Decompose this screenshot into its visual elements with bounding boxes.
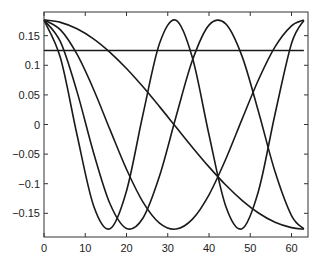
x-tick-label: 0 <box>41 242 47 254</box>
y-tick-label: 0.1 <box>25 59 40 71</box>
x-tick-label: 60 <box>285 242 297 254</box>
line-chart: 0102030405060 0.150.10.050−0.05−0.1−0.15 <box>0 0 323 263</box>
x-tick-label: 20 <box>120 242 132 254</box>
y-tick-label: 0 <box>34 119 40 131</box>
y-tick-label: −0.05 <box>12 148 40 160</box>
y-tick-label: 0.05 <box>19 89 40 101</box>
plot-background <box>44 12 308 237</box>
x-tick-label: 30 <box>162 242 174 254</box>
y-tick-label: −0.15 <box>12 207 40 219</box>
x-tick-label: 50 <box>244 242 256 254</box>
y-tick-label: 0.15 <box>19 30 40 42</box>
x-tick-label: 40 <box>203 242 215 254</box>
y-tick-label: −0.1 <box>18 178 40 190</box>
x-tick-label: 10 <box>79 242 91 254</box>
